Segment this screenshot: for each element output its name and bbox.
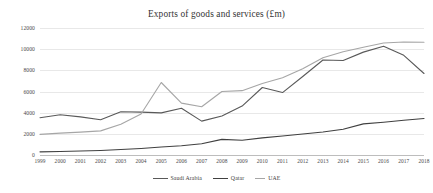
plot-area [40, 28, 424, 155]
legend-label: Qatar [231, 175, 244, 181]
chart-legend: Saudi ArabiaQatarUAE [0, 175, 433, 181]
x-axis-line [40, 155, 424, 156]
series-lines [40, 28, 424, 155]
y-axis-tick-label: 12000 [21, 25, 35, 31]
x-axis-tick-label: 2006 [176, 158, 187, 164]
x-axis-tick-label: 2005 [156, 158, 167, 164]
x-axis-tick-label: 2007 [196, 158, 207, 164]
legend-swatch-icon [255, 178, 265, 179]
series-line [40, 46, 424, 121]
x-axis-tick-label: 2017 [398, 158, 409, 164]
x-axis-tick-label: 2002 [95, 158, 106, 164]
chart-page: Exports of goods and services (£m) 02000… [0, 0, 433, 193]
x-axis-tick-label: 2015 [358, 158, 369, 164]
x-axis-tick-label: 2008 [216, 158, 227, 164]
y-axis-tick-label: 4000 [23, 110, 35, 116]
y-axis-tick-label: 2000 [23, 131, 35, 137]
y-axis-tick-label: 6000 [23, 89, 35, 95]
legend-item[interactable]: Qatar [213, 175, 244, 181]
x-axis-tick-label: 2010 [257, 158, 268, 164]
x-axis-tick-label: 2011 [277, 158, 288, 164]
legend-item[interactable]: Saudi Arabia [153, 175, 202, 181]
x-axis-tick-label: 2000 [55, 158, 66, 164]
x-axis-tick-label: 1999 [34, 158, 45, 164]
x-axis-tick-label: 2018 [418, 158, 429, 164]
y-axis-labels: 020004000600080001000012000 [0, 0, 38, 193]
x-axis-tick-label: 2013 [317, 158, 328, 164]
x-axis-tick-label: 2009 [237, 158, 248, 164]
x-axis-tick-label: 2003 [115, 158, 126, 164]
legend-swatch-icon [213, 178, 228, 179]
x-axis-tick-label: 2001 [75, 158, 86, 164]
legend-item[interactable]: UAE [255, 175, 280, 181]
x-axis-tick-label: 2012 [297, 158, 308, 164]
legend-label: Saudi Arabia [171, 175, 202, 181]
legend-swatch-icon [153, 178, 168, 179]
x-axis-labels: 1999200020012002200320042005200620072008… [40, 158, 424, 170]
top-strip [0, 0, 433, 8]
series-line [40, 118, 424, 151]
legend-label: UAE [268, 175, 280, 181]
x-axis-tick-label: 2004 [135, 158, 146, 164]
x-axis-tick-label: 2014 [338, 158, 349, 164]
y-axis-tick-label: 10000 [21, 46, 35, 52]
series-line [40, 42, 424, 134]
chart-title: Exports of goods and services (£m) [0, 9, 433, 19]
y-axis-tick-label: 8000 [23, 67, 35, 73]
x-axis-tick-label: 2016 [378, 158, 389, 164]
